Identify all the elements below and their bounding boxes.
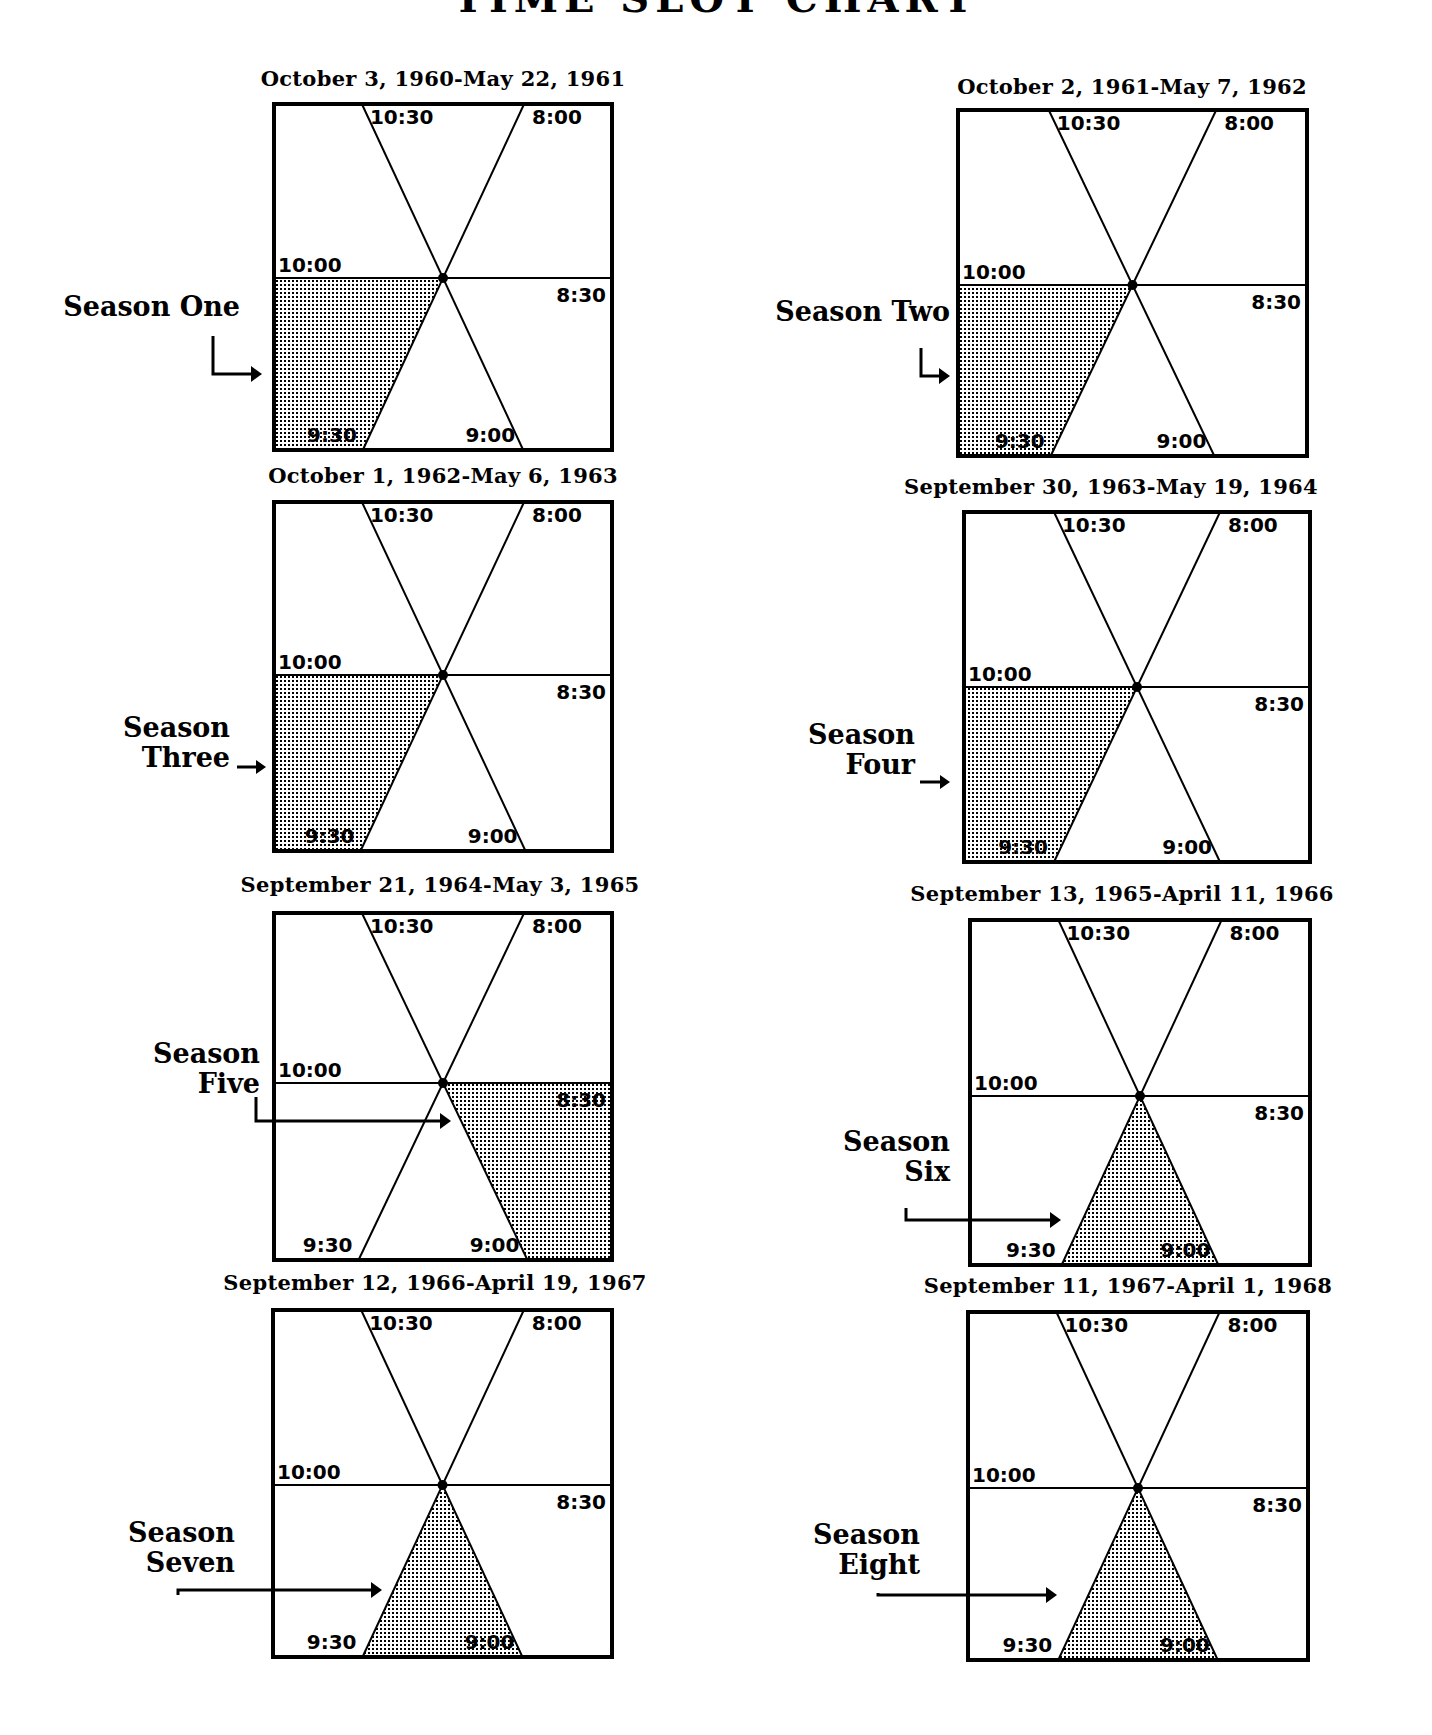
center-dot [1133,1483,1143,1493]
slot-label-1000: 10:00 [972,1463,1036,1487]
slot-label-930: 9:30 [1003,1633,1053,1657]
slot-label-1030: 10:30 [1064,1313,1128,1337]
slot-label-830: 8:30 [1252,1493,1302,1517]
slot-diagram: 10:308:0010:008:309:309:00 [0,0,1432,1735]
slot-label-800: 8:00 [1228,1313,1278,1337]
slot-label-900: 9:00 [1160,1633,1210,1657]
